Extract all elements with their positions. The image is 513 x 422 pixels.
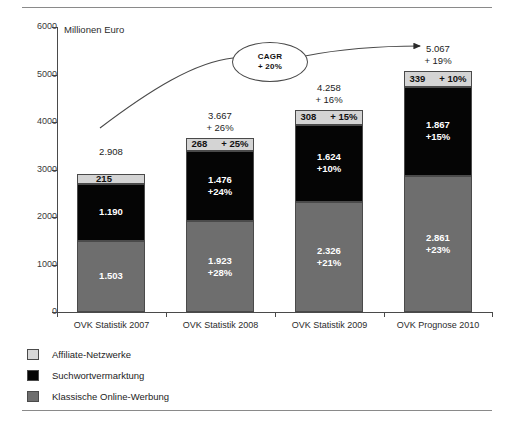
- cagr-label: CAGR: [258, 52, 282, 62]
- bar-total-pct-2008: + 26%: [186, 122, 254, 134]
- y-axis-line: [57, 27, 58, 313]
- bar-total-2007: 2.908: [77, 146, 145, 158]
- x-axis-label-2010: OVK Prognose 2010: [384, 320, 492, 331]
- segment-value: 1.190: [99, 206, 123, 218]
- segment-value: 268: [191, 138, 207, 150]
- y-tick-label-1000: 1000: [23, 260, 57, 269]
- cagr-arrow-right-curve: [305, 46, 420, 56]
- bar-total-pct-2010: + 19%: [404, 55, 472, 67]
- bar-segment-klassische-online-werbung-2009[interactable]: 2.326 +21%: [295, 202, 363, 313]
- segment-value: 339: [409, 73, 425, 85]
- x-axis-label-2008: OVK Statistik 2008: [166, 320, 275, 331]
- bar-segment-suchwortvermarktung-2009[interactable]: 1.624 +10%: [295, 125, 363, 202]
- bar-segment-suchwortvermarktung-2010[interactable]: 1.867 +15%: [404, 87, 472, 176]
- y-tick-label-4000: 4000: [23, 117, 57, 126]
- legend-swatch-icon-klassische: [27, 391, 39, 402]
- legend-label-affiliate: Affiliate-Netzwerke: [52, 349, 131, 360]
- x-tick-mark-4: [492, 312, 493, 317]
- segment-value: 2.326: [317, 245, 341, 257]
- bar-segment-suchwortvermarktung-2007[interactable]: 1.190: [77, 184, 145, 241]
- bar-column-2009[interactable]: 4.258 + 16% 308 + 15% 1.624 +10% 2.326 +…: [295, 110, 363, 312]
- legend-item-affiliate-netzwerke[interactable]: Affiliate-Netzwerke: [27, 344, 169, 365]
- segment-value: 1.476: [208, 174, 232, 186]
- chart-legend: Affiliate-Netzwerke Suchwortvermarktung …: [27, 344, 169, 407]
- bar-segment-affiliate-2008[interactable]: 268 + 25%: [186, 138, 254, 151]
- bar-segment-suchwortvermarktung-2008[interactable]: 1.476 +24%: [186, 151, 254, 221]
- y-tick-label-2000: 2000: [23, 212, 57, 221]
- segment-pct: +21%: [317, 257, 342, 269]
- y-tick-label-3000: 3000: [23, 165, 57, 174]
- x-axis-label-2009: OVK Statistik 2009: [275, 320, 384, 331]
- bar-column-2010[interactable]: 5.067 + 19% 339 + 10% 1.867 +15% 2.861 +…: [404, 71, 472, 312]
- legend-item-klassische-online-werbung[interactable]: Klassische Online-Werbung: [27, 386, 169, 407]
- bar-total-2010: 5.067: [404, 43, 472, 55]
- segment-pct: + 15%: [330, 111, 357, 123]
- segment-pct: +28%: [208, 267, 233, 279]
- y-tick-label-5000: 5000: [23, 70, 57, 79]
- legend-label-suchwortvermarktung: Suchwortvermarktung: [52, 370, 144, 381]
- segment-value: 1.867: [426, 119, 450, 131]
- segment-pct: +23%: [426, 244, 451, 256]
- legend-item-suchwortvermarktung[interactable]: Suchwortvermarktung: [27, 365, 169, 386]
- segment-value: 1.923: [208, 255, 232, 267]
- x-tick-mark-0: [57, 312, 58, 317]
- segment-pct: + 10%: [439, 73, 466, 85]
- segment-value: 1.503: [99, 270, 123, 282]
- x-tick-mark-3: [384, 312, 385, 317]
- x-tick-mark-2: [275, 312, 276, 317]
- legend-swatch-icon-suchwortvermarktung: [27, 370, 39, 381]
- bar-total-2008: 3.667: [186, 110, 254, 122]
- segment-value: 308: [300, 111, 316, 123]
- segment-value: 2.861: [426, 232, 450, 244]
- bar-total-pct-2009: + 16%: [295, 94, 363, 106]
- bar-total-2009: 4.258: [295, 82, 363, 94]
- bar-column-2008[interactable]: 3.667 + 26% 268 + 25% 1.476 +24% 1.923 +…: [186, 138, 254, 312]
- chart-figure: Millionen Euro 6000 5000 4000 3000 2000 …: [0, 0, 513, 422]
- segment-pct: +24%: [208, 186, 233, 198]
- legend-label-klassische: Klassische Online-Werbung: [52, 391, 169, 402]
- y-axis-unit-label: Millionen Euro: [64, 24, 124, 35]
- x-tick-mark-1: [166, 312, 167, 317]
- bar-segment-affiliate-2010[interactable]: 339 + 10%: [404, 71, 472, 87]
- segment-value: 1.624: [317, 151, 341, 163]
- bar-segment-klassische-online-werbung-2007[interactable]: 1.503: [77, 241, 145, 312]
- bar-segment-affiliate-2009[interactable]: 308 + 15%: [295, 110, 363, 125]
- legend-swatch-icon-affiliate: [27, 349, 39, 360]
- x-axis-label-2007: OVK Statistik 2007: [57, 320, 166, 331]
- y-tick-label-6000: 6000: [23, 22, 57, 31]
- y-tick-label-0: 0: [23, 307, 57, 316]
- bar-segment-klassische-online-werbung-2008[interactable]: 1.923 +28%: [186, 221, 254, 312]
- bar-segment-affiliate-2007[interactable]: 215: [77, 174, 145, 184]
- segment-pct: +10%: [317, 163, 342, 175]
- bar-column-2007[interactable]: 2.908 215 1.190 1.503: [77, 174, 145, 312]
- segment-pct: +15%: [426, 131, 451, 143]
- segment-pct: + 25%: [221, 138, 248, 150]
- bar-segment-klassische-online-werbung-2010[interactable]: 2.861 +23%: [404, 176, 472, 312]
- cagr-value: + 20%: [258, 62, 282, 72]
- cagr-annotation-bubble: CAGR + 20%: [232, 42, 308, 82]
